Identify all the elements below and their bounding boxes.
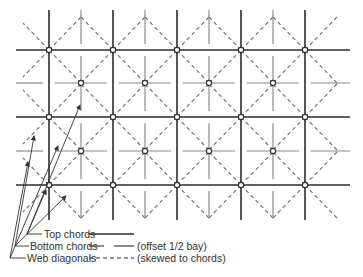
web-diagonal (23, 117, 49, 144)
bottom-node (142, 80, 147, 85)
top-node (46, 47, 51, 52)
top-node (174, 182, 179, 187)
web-diagonal (113, 17, 145, 50)
web-diagonal (241, 185, 273, 218)
top-node (302, 182, 307, 187)
web-diagonal (209, 152, 241, 185)
web-diagonal (49, 117, 81, 150)
web-diagonal (177, 152, 209, 185)
web-diagonal (273, 152, 305, 185)
legend-note-bottom-chords: (offset 1/2 bay) (137, 240, 207, 252)
leader-bottom-chords-arrow (15, 136, 34, 246)
web-diagonal (273, 84, 305, 117)
web-diagonal (305, 185, 337, 218)
bottom-chords (16, 10, 350, 218)
web-diagonal (23, 158, 49, 185)
web-diagonal (23, 23, 49, 50)
bottom-node (270, 80, 275, 85)
web-diagonal (305, 152, 337, 185)
web-diagonal (177, 17, 209, 50)
top-node (238, 114, 243, 119)
top-node (302, 114, 307, 119)
web-diagonal (241, 117, 273, 150)
web-diagonal (209, 117, 241, 150)
web-diagonal (49, 84, 81, 117)
web-diagonal (145, 152, 177, 185)
web-diagonal (81, 185, 113, 218)
legend-label-bottom-chords: Bottom chords (30, 240, 98, 252)
web-diagonal (49, 17, 81, 50)
top-node (302, 47, 307, 52)
top-node (46, 114, 51, 119)
top-node (238, 182, 243, 187)
web-diagonal (209, 17, 241, 50)
web-diagonal (305, 84, 337, 117)
web-diagonal (305, 50, 337, 83)
leader-web-diagonals-arrow (10, 162, 28, 258)
web-diagonal (177, 50, 209, 83)
web-diagonal (81, 17, 113, 50)
web-diagonal (241, 152, 273, 185)
web-diagonal (81, 117, 113, 150)
web-diagonal (145, 17, 177, 50)
bottom-node (206, 80, 211, 85)
web-diagonal (241, 84, 273, 117)
bottom-node (78, 80, 83, 85)
web-diagonal (145, 84, 177, 117)
top-node (174, 47, 179, 52)
bottom-node (78, 148, 83, 153)
top-chords (16, 10, 350, 220)
top-node (238, 47, 243, 52)
legend-label-top-chords: Top chords (44, 228, 95, 240)
web-diagonal (305, 117, 337, 150)
web-diagonal (177, 117, 209, 150)
legend-label-web-diagonals: Web diagonals (27, 252, 96, 264)
web-diagonal (81, 84, 113, 117)
web-diagonal (113, 50, 145, 83)
web-diagonal (273, 117, 305, 150)
web-diagonal (113, 117, 145, 150)
web-diagonal (145, 185, 177, 218)
legend-note-web-diagonals: (skewed to chords) (137, 252, 226, 264)
top-node (174, 114, 179, 119)
leader-top-chords-arrow (27, 105, 80, 234)
web-diagonal (113, 152, 145, 185)
web-diagonal (49, 50, 81, 83)
web-diagonal (209, 84, 241, 117)
top-node (110, 182, 115, 187)
web-diagonal (177, 185, 209, 218)
web-diagonal (113, 185, 145, 218)
web-diagonal (23, 50, 49, 77)
web-diagonal (273, 50, 305, 83)
web-diagonal (145, 50, 177, 83)
web-diagonal (241, 50, 273, 83)
web-diagonal (81, 50, 113, 83)
web-diagonal (305, 17, 337, 50)
top-node (110, 114, 115, 119)
web-diagonal (49, 185, 81, 218)
bottom-node (270, 148, 275, 153)
web-diagonal (209, 185, 241, 218)
web-diagonal (113, 84, 145, 117)
web-diagonal (177, 84, 209, 117)
bottom-node (206, 148, 211, 153)
web-diagonal (273, 185, 305, 218)
web-diagonal (145, 117, 177, 150)
web-diagonal (209, 50, 241, 83)
web-diagonal (81, 152, 113, 185)
web-diagonal (273, 17, 305, 50)
web-diagonal (23, 90, 49, 117)
bottom-node (142, 148, 147, 153)
top-node (110, 47, 115, 52)
web-diagonal (241, 17, 273, 50)
